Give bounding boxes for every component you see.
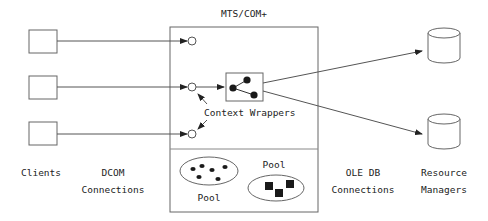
oledb-label-line-2: Connections [332, 184, 395, 195]
pool-label-2: Pool [263, 159, 286, 170]
client-box-3 [29, 122, 57, 145]
object-node-icon [229, 84, 236, 91]
oledb-label-line-1: OLE DB [346, 167, 381, 178]
object-pool-ellipse-1 [180, 157, 238, 185]
object-node-icon [243, 76, 250, 83]
pool-label-1: Pool [198, 192, 221, 203]
database-icon-2 [428, 114, 460, 149]
mts-architecture-diagram: MTS/COM+ Context Wrappers [0, 0, 488, 221]
object-pool-ellipse-2 [248, 175, 304, 201]
context-wrapper-circle-3 [188, 130, 196, 138]
object-node-icon [250, 91, 257, 98]
client-box-2 [29, 76, 57, 99]
database-icon-1 [428, 28, 460, 63]
context-wrapper-circle-1 [188, 37, 196, 45]
resource-managers-label-line-2: Managers [421, 184, 467, 195]
resource-managers-label-line-1: Resource [421, 167, 467, 178]
clients-label: Clients [21, 167, 61, 178]
mts-title: MTS/COM+ [221, 8, 267, 19]
dcom-label-line-1: DCOM [102, 167, 125, 178]
client-box-1 [29, 30, 57, 53]
context-wrappers-label: Context Wrappers [204, 107, 296, 118]
dcom-label-line-2: Connections [82, 184, 145, 195]
context-wrapper-circle-2 [188, 83, 196, 91]
